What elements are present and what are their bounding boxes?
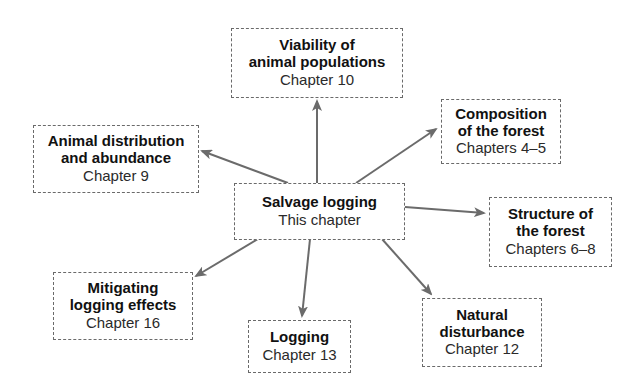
node-chapter: Chapters 4–5 bbox=[456, 140, 546, 157]
node-title: Logging bbox=[270, 329, 329, 346]
node-title: Composition of the forest bbox=[455, 106, 547, 140]
node-chapter: Chapter 13 bbox=[262, 347, 336, 364]
node-chapter: Chapters 6–8 bbox=[505, 241, 595, 258]
node-composition: Composition of the forest Chapters 4–5 bbox=[441, 99, 561, 164]
arrow-to-natural-disturbance bbox=[382, 239, 431, 294]
node-title: Viability of animal populations bbox=[249, 37, 386, 71]
node-salvage-logging: Salvage logging This chapter bbox=[234, 183, 405, 240]
node-chapter: Chapter 10 bbox=[280, 72, 354, 89]
node-mitigating: Mitigating logging effects Chapter 16 bbox=[53, 272, 193, 340]
node-chapter: Chapter 9 bbox=[83, 168, 149, 185]
node-natural-disturbance: Natural disturbance Chapter 12 bbox=[422, 298, 542, 367]
node-chapter: This chapter bbox=[278, 212, 361, 229]
arrow-to-logging bbox=[302, 239, 310, 316]
node-title: Salvage logging bbox=[262, 194, 377, 211]
node-animal-distribution: Animal distribution and abundance Chapte… bbox=[33, 125, 199, 193]
node-title: Natural disturbance bbox=[439, 307, 524, 341]
arrow-to-composition bbox=[356, 129, 436, 183]
node-structure: Structure of the forest Chapters 6–8 bbox=[489, 197, 612, 267]
node-chapter: Chapter 12 bbox=[445, 341, 519, 358]
arrow-to-mitigating bbox=[196, 239, 258, 276]
arrow-to-animal-distribution bbox=[202, 151, 288, 183]
node-title: Animal distribution and abundance bbox=[48, 133, 185, 167]
node-title: Mitigating logging effects bbox=[70, 280, 177, 314]
node-viability: Viability of animal populations Chapter … bbox=[231, 28, 403, 98]
node-title: Structure of the forest bbox=[508, 206, 593, 240]
node-logging: Logging Chapter 13 bbox=[248, 320, 351, 373]
arrow-to-structure bbox=[405, 207, 484, 213]
node-chapter: Chapter 16 bbox=[86, 315, 160, 332]
diagram-canvas: Viability of animal populations Chapter … bbox=[0, 0, 629, 384]
